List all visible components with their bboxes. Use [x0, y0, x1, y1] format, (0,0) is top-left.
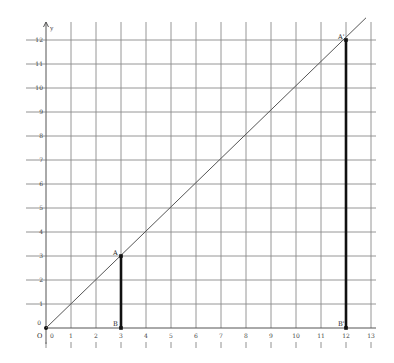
x-tick-label: 11: [317, 332, 325, 339]
y-tick-label: 1: [39, 300, 43, 307]
y-tick-label: 4: [39, 228, 43, 235]
point-marker: [119, 326, 123, 330]
y-tick-label: 0: [37, 319, 41, 326]
x-tick-label: 6: [194, 332, 198, 339]
x-tick-label: 5: [169, 332, 173, 339]
y-tick-label: 8: [39, 132, 43, 139]
y-tick-label: 6: [39, 180, 43, 187]
x-tick-label: 12: [342, 332, 350, 339]
point-marker: [344, 326, 348, 330]
x-tick-label: 7: [219, 332, 223, 339]
x-tick-label: 2: [94, 332, 98, 339]
plot-canvas: y1234567891011120012345678910111213OABA'…: [0, 0, 394, 363]
x-tick-label: 1: [69, 332, 73, 339]
x-tick-label: 13: [367, 332, 375, 339]
x-tick-label: 9: [269, 332, 273, 339]
point-marker: [119, 254, 123, 258]
origin-label: O: [37, 332, 42, 340]
point-marker: [344, 38, 348, 42]
point-label: B': [338, 320, 345, 328]
y-tick-label: 10: [35, 84, 43, 91]
y-tick-label: 3: [39, 252, 43, 259]
x-tick-label: 4: [144, 332, 148, 339]
y-tick-label: 5: [39, 204, 43, 211]
coordinate-plot: y1234567891011120012345678910111213OABA'…: [0, 0, 394, 363]
point-label: A: [112, 249, 118, 257]
x-tick-label: 0: [50, 332, 54, 339]
x-tick-label: 8: [244, 332, 248, 339]
x-tick-label: 10: [292, 332, 300, 339]
x-tick-label: 3: [119, 332, 123, 339]
y-tick-label: 12: [35, 36, 43, 43]
point-label: B: [113, 320, 118, 328]
y-axis-label: y: [49, 24, 54, 32]
y-tick-label: 9: [39, 108, 43, 115]
y-tick-label: 11: [35, 60, 43, 67]
y-tick-label: 7: [39, 156, 43, 163]
y-tick-label: 2: [39, 276, 43, 283]
point-label: A': [337, 33, 345, 41]
